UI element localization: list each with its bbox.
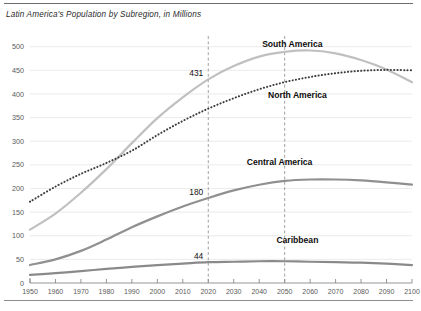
y-axis-tick-label: 150 <box>12 208 24 217</box>
x-axis-tick-label: 1980 <box>99 288 115 295</box>
x-axis-tick-label: 1970 <box>73 288 89 295</box>
x-axis-tick-label: 2050 <box>277 288 293 295</box>
x-axis-tick-label: 2030 <box>226 288 242 295</box>
y-axis-tick-label: 200 <box>12 184 24 193</box>
series-line-north-america <box>30 70 412 202</box>
series-label-south-america: South America <box>262 39 323 49</box>
x-axis-tick-label: 2020 <box>200 288 216 295</box>
x-axis-tick-label: 1960 <box>48 288 64 295</box>
x-axis-tick-label: 2000 <box>150 288 166 295</box>
data-annotation-44: 44 <box>194 251 204 261</box>
series-label-central-america: Central America <box>247 157 313 167</box>
x-axis-tick-label: 1950 <box>22 288 38 295</box>
chart-figure: Latin America's Population by Subregion,… <box>0 0 421 311</box>
y-axis-tick-label: 350 <box>12 113 24 122</box>
series-line-central-america <box>30 179 412 265</box>
series-label-caribbean: Caribbean <box>276 235 318 245</box>
x-axis-tick-label: 2010 <box>175 288 191 295</box>
y-axis-tick-label: 500 <box>12 42 24 51</box>
series-label-north-america: North America <box>268 90 327 100</box>
data-annotation-431: 431 <box>189 68 203 78</box>
y-axis-tick-label: 0 <box>20 279 24 288</box>
y-axis-tick-label: 100 <box>12 231 24 240</box>
y-axis-tick-label: 450 <box>12 66 24 75</box>
y-axis-tick-label: 250 <box>12 160 24 169</box>
x-axis-tick-label: 2080 <box>353 288 369 295</box>
y-axis-tick-label: 400 <box>12 90 24 99</box>
y-axis-tick-label: 300 <box>12 137 24 146</box>
x-axis-tick-label: 2060 <box>302 288 318 295</box>
bottom-divider <box>4 300 413 301</box>
x-axis-tick-label: 2040 <box>251 288 267 295</box>
y-axis-tick-label: 50 <box>16 255 24 264</box>
line-chart-plot: 0501001502002503003504004505001950196019… <box>0 0 421 311</box>
x-axis-tick-label: 2100 <box>404 288 420 295</box>
data-annotation-180: 180 <box>189 187 203 197</box>
x-axis-tick-label: 2070 <box>328 288 344 295</box>
x-axis-tick-label: 1990 <box>124 288 140 295</box>
series-line-south-america <box>30 50 412 229</box>
series-line-caribbean <box>30 261 412 275</box>
x-axis-tick-label: 2090 <box>379 288 395 295</box>
